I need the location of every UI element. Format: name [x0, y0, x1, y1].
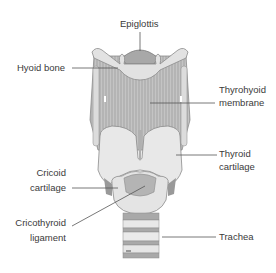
label-cricoid-line1: Cricoid — [0, 167, 66, 179]
label-thyroid-line1: Thyroid — [219, 148, 251, 160]
label-epiglottis: Epiglottis — [120, 18, 159, 30]
label-cricothyroid-line2: ligament — [0, 232, 66, 244]
label-thyroid-line2: cartilage — [219, 161, 255, 173]
label-hyoid-bone: Hyoid bone — [17, 62, 65, 74]
label-cricothyroid-line1: Cricothyroid — [0, 217, 66, 229]
label-thyrohyoid-line2: membrane — [219, 97, 264, 109]
epiglottis-shape — [122, 50, 158, 64]
trachea-shape — [123, 213, 159, 258]
cricothyroid-ligament-shape — [124, 174, 156, 196]
label-cricoid-line2: cartilage — [0, 182, 66, 194]
cricoid-cartilage-shape — [104, 172, 176, 215]
label-trachea: Trachea — [219, 231, 254, 243]
larynx-diagram: Epiglottis Hyoid bone Thyrohyoid membran… — [0, 0, 276, 273]
label-thyrohyoid-line1: Thyrohyoid — [219, 84, 266, 96]
